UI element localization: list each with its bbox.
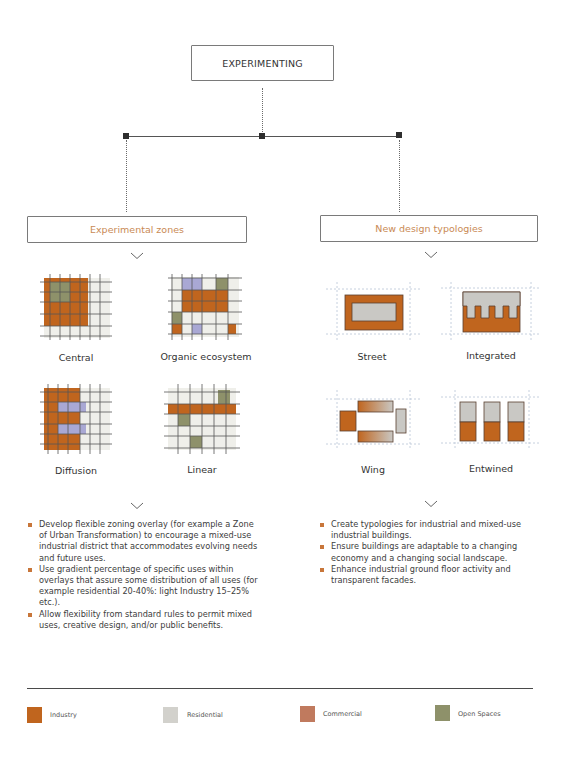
chevron-down-icon xyxy=(130,252,144,260)
legend-label-commercial: Commercial xyxy=(323,710,362,718)
legend-label-residential: Residential xyxy=(187,711,223,719)
entwined-typology-diagram xyxy=(441,390,541,448)
organic-ecosystem-grid xyxy=(168,274,242,340)
typology-label-wing: Wing xyxy=(313,464,433,475)
connector-node-center xyxy=(259,133,265,139)
legend-swatch-open-spaces xyxy=(435,705,450,721)
experimental-zones-bullets: Develop flexible zoning overlay (for exa… xyxy=(28,519,260,631)
wing-typology-diagram xyxy=(326,390,420,448)
chevron-down-icon xyxy=(424,500,438,508)
legend-swatch-residential xyxy=(163,707,178,723)
experimental-zones-box: Experimental zones xyxy=(27,216,247,243)
connector-vertical-left xyxy=(126,140,127,212)
chevron-down-icon xyxy=(130,502,144,510)
legend-swatch-commercial xyxy=(300,706,315,722)
zone-label-linear: Linear xyxy=(142,464,262,475)
bullet-item: Allow flexibility from standard rules to… xyxy=(28,609,260,631)
new-design-typologies-box: New design typologies xyxy=(320,215,538,242)
bullet-item: Create typologies for industrial and mix… xyxy=(320,519,538,541)
diffusion-zone-grid xyxy=(40,384,112,454)
central-zone-grid xyxy=(40,274,112,340)
typology-label-integrated: Integrated xyxy=(431,350,551,361)
linear-zone-grid xyxy=(164,384,240,454)
experimenting-box: EXPERIMENTING xyxy=(191,45,334,81)
street-typology-diagram xyxy=(326,282,420,340)
zone-label-organic-ecosystem: Organic ecosystem xyxy=(146,351,266,362)
bullet-item: Ensure buildings are adaptable to a chan… xyxy=(320,541,538,563)
experimental-zones-title: Experimental zones xyxy=(90,224,184,235)
chevron-down-icon xyxy=(424,251,438,259)
bullet-item: Develop flexible zoning overlay (for exa… xyxy=(28,519,260,564)
integrated-typology-diagram xyxy=(441,282,541,340)
bullet-item: Enhance industrial ground floor activity… xyxy=(320,564,538,586)
typology-label-street: Street xyxy=(312,351,432,362)
connector-node-right xyxy=(396,132,402,138)
new-design-typologies-title: New design typologies xyxy=(375,223,482,234)
connector-vertical-top xyxy=(262,88,263,136)
legend-label-open-spaces: Open Spaces xyxy=(458,710,501,718)
new-design-typologies-bullets: Create typologies for industrial and mix… xyxy=(320,519,538,586)
legend-divider xyxy=(27,688,533,689)
zone-label-central: Central xyxy=(16,352,136,363)
connector-vertical-right xyxy=(399,140,400,212)
experimenting-title: EXPERIMENTING xyxy=(222,58,303,69)
typology-label-entwined: Entwined xyxy=(431,463,551,474)
bullet-item: Use gradient percentage of specific uses… xyxy=(28,564,260,609)
legend-swatch-industry xyxy=(27,707,42,723)
legend-label-industry: Industry xyxy=(50,711,77,719)
connector-node-left xyxy=(123,133,129,139)
zone-label-diffusion: Diffusion xyxy=(16,465,136,476)
